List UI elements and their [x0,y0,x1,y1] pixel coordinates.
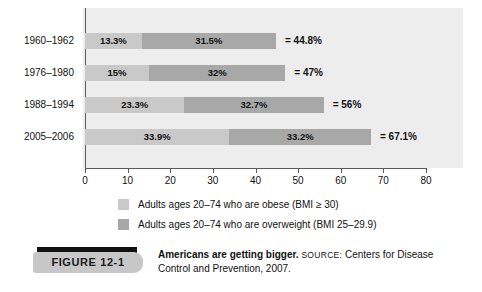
x-axis-tick-20 [170,168,171,173]
legend-item-overweight: Adults ages 20–74 who are overweight (BM… [118,214,468,234]
row-category-label: 1976–1980 [0,65,74,81]
x-axis-tick-40 [256,168,257,173]
x-axis-tick-label-70: 70 [368,175,398,186]
row-category-label: 2005–2006 [0,129,74,145]
bar-total-label: = 56% [333,97,362,113]
figure-caption: Americans are getting bigger. SOURCE: Ce… [158,248,458,276]
x-axis-tick-label-80: 80 [411,175,441,186]
bar-total-label: = 44.8% [285,33,322,49]
x-axis-tick-80 [426,168,427,173]
stacked-bar: 15%32% [85,65,285,81]
chart-row: 1976–198015%32%= 47% [0,65,482,81]
bar-segment-obese: 13.3% [85,33,142,49]
stacked-bar: 23.3%32.7% [85,97,324,113]
bar-total-label: = 67.1% [380,129,417,145]
x-axis-tick-0 [85,168,86,173]
row-category-label: 1960–1962 [0,33,74,49]
figure-badge-label: FIGURE 12-1 [33,252,143,273]
bar-segment-overweight: 31.5% [142,33,276,49]
bar-segment-obese: 33.9% [85,129,229,145]
stacked-bar: 33.9%33.2% [85,129,371,145]
x-axis-tick-10 [128,168,129,173]
chart-row: 2005–200633.9%33.2%= 67.1% [0,129,482,145]
legend-swatch-overweight [118,219,129,230]
figure-container: 01020304050607080 1960–196213.3%31.5%= 4… [0,0,482,292]
bar-segment-overweight: 32% [149,65,285,81]
caption-source-keyword: SOURCE: [301,250,342,260]
x-axis-tick-label-10: 10 [113,175,143,186]
bar-segment-overweight: 32.7% [184,97,323,113]
chart-row: 1960–196213.3%31.5%= 44.8% [0,33,482,49]
x-axis-tick-label-30: 30 [198,175,228,186]
bar-segment-obese: 15% [85,65,149,81]
x-axis-tick-label-50: 50 [283,175,313,186]
x-axis-tick-50 [298,168,299,173]
legend-label-obese: Adults ages 20–74 who are obese (BMI ≥ 3… [138,199,339,210]
stacked-bar: 13.3%31.5% [85,33,276,49]
x-axis-tick-label-60: 60 [326,175,356,186]
bar-total-label: = 47% [294,65,323,81]
legend-item-obese: Adults ages 20–74 who are obese (BMI ≥ 3… [118,194,468,214]
legend-label-overweight: Adults ages 20–74 who are overweight (BM… [138,219,376,230]
chart-row: 1988–199423.3%32.7%= 56% [0,97,482,113]
x-axis-tick-label-40: 40 [241,175,271,186]
x-axis-tick-label-20: 20 [155,175,185,186]
x-axis-tick-70 [383,168,384,173]
caption-title: Americans are getting bigger. [158,249,299,260]
bar-segment-obese: 23.3% [85,97,184,113]
legend-swatch-obese [118,199,129,210]
row-category-label: 1988–1994 [0,97,74,113]
x-axis-tick-60 [341,168,342,173]
figure-badge: FIGURE 12-1 [33,252,143,274]
x-axis-tick-30 [213,168,214,173]
chart-legend: Adults ages 20–74 who are obese (BMI ≥ 3… [118,194,468,234]
bar-segment-overweight: 33.2% [229,129,371,145]
x-axis-tick-label-0: 0 [70,175,100,186]
